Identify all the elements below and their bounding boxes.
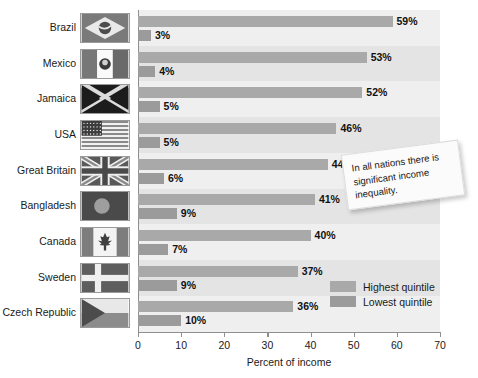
bar-highest-quintile	[138, 194, 315, 205]
flag-usa-icon	[80, 120, 130, 150]
bar-lowest-quintile	[138, 208, 177, 219]
x-axis-tick-label: 30	[262, 339, 274, 351]
bar-highest-quintile	[138, 159, 328, 170]
x-axis-tick	[311, 332, 312, 337]
category-label-sweden: Sweden	[0, 271, 76, 283]
bar-lowest-quintile	[138, 315, 181, 326]
bar-lowest-quintile	[138, 66, 155, 77]
x-axis-tick	[267, 332, 268, 337]
bar-lowest-quintile	[138, 173, 164, 184]
x-axis-tick-label: 70	[434, 339, 446, 351]
bar-lowest-quintile	[138, 30, 151, 41]
category-label-mexico: Mexico	[0, 57, 76, 69]
bar-value-highest-quintile: 53%	[371, 51, 392, 63]
category-label-brazil: Brazil	[0, 21, 76, 33]
flag-sweden-icon	[80, 263, 130, 293]
income-inequality-bar-chart: 010203040506070 Percent of income Brazil…	[0, 0, 478, 378]
category-label-great-britain: Great Britain	[0, 164, 76, 176]
bar-lowest-quintile	[138, 137, 160, 148]
flag-czech-republic-icon	[80, 298, 130, 328]
bar-value-highest-quintile: 41%	[319, 193, 340, 205]
bar-lowest-quintile	[138, 280, 177, 291]
flag-jamaica-icon	[80, 84, 130, 114]
x-axis-tick	[397, 332, 398, 337]
x-axis-tick-label: 60	[391, 339, 403, 351]
bar-value-lowest-quintile: 4%	[159, 65, 174, 77]
x-axis-tick-label: 20	[218, 339, 230, 351]
x-axis-tick	[440, 332, 441, 337]
sticky-note-text: In all nations there is significant inco…	[351, 149, 455, 202]
category-label-canada: Canada	[0, 235, 76, 247]
bar-lowest-quintile	[138, 101, 160, 112]
bar-value-lowest-quintile: 6%	[168, 172, 183, 184]
flag-brazil-icon	[80, 13, 130, 43]
bar-highest-quintile	[138, 52, 367, 63]
bar-highest-quintile	[138, 266, 298, 277]
flag-canada-icon	[80, 227, 130, 257]
x-axis-tick-label: 0	[135, 339, 141, 351]
x-axis-tick	[138, 332, 139, 337]
bar-value-lowest-quintile: 9%	[181, 207, 196, 219]
bar-value-highest-quintile: 36%	[297, 300, 318, 312]
bar-value-lowest-quintile: 5%	[164, 136, 179, 148]
category-label-bangladesh: Bangladesh	[0, 199, 76, 211]
bar-value-lowest-quintile: 9%	[181, 279, 196, 291]
x-axis-title: Percent of income	[138, 356, 440, 368]
legend-swatch-lowest-quintile	[330, 296, 356, 307]
bar-highest-quintile	[138, 230, 311, 241]
category-label-jamaica: Jamaica	[0, 92, 76, 104]
x-axis-tick	[354, 332, 355, 337]
bar-value-lowest-quintile: 3%	[155, 29, 170, 41]
bar-value-lowest-quintile: 5%	[164, 100, 179, 112]
legend-item-lowest-quintile: Lowest quintile	[330, 294, 435, 309]
x-axis-tick-label: 50	[348, 339, 360, 351]
bar-value-highest-quintile: 59%	[397, 15, 418, 27]
chart-legend: Highest quintile Lowest quintile	[330, 279, 435, 309]
bar-highest-quintile	[138, 301, 293, 312]
x-axis-tick	[181, 332, 182, 337]
bar-value-highest-quintile: 37%	[302, 265, 323, 277]
legend-item-highest-quintile: Highest quintile	[330, 279, 435, 294]
bar-value-lowest-quintile: 7%	[172, 243, 187, 255]
x-axis-tick-label: 10	[175, 339, 187, 351]
legend-swatch-highest-quintile	[330, 281, 356, 292]
category-label-czech-republic: Czech Republic	[0, 306, 76, 318]
flag-great-britain-icon	[80, 156, 130, 186]
flag-mexico-icon	[80, 49, 130, 79]
legend-label-lowest-quintile: Lowest quintile	[363, 296, 432, 308]
bar-lowest-quintile	[138, 244, 168, 255]
bar-value-highest-quintile: 46%	[340, 122, 361, 134]
bar-value-lowest-quintile: 10%	[185, 314, 206, 326]
bar-highest-quintile	[138, 87, 362, 98]
bar-value-highest-quintile: 52%	[366, 86, 387, 98]
bar-highest-quintile	[138, 123, 336, 134]
x-axis-tick	[224, 332, 225, 337]
category-label-usa: USA	[0, 128, 76, 140]
x-axis-tick-label: 40	[305, 339, 317, 351]
bar-value-highest-quintile: 40%	[315, 229, 336, 241]
x-axis-line	[138, 332, 440, 333]
bar-highest-quintile	[138, 16, 393, 27]
flag-bangladesh-icon	[80, 191, 130, 221]
legend-label-highest-quintile: Highest quintile	[363, 281, 435, 293]
